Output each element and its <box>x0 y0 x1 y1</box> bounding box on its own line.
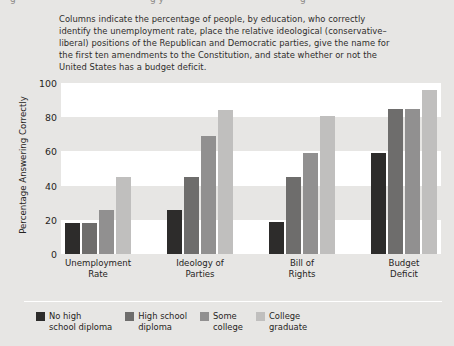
bar <box>116 177 131 254</box>
bar-group <box>65 83 131 254</box>
bar <box>303 153 318 254</box>
bar-groups <box>61 83 441 254</box>
bar <box>320 116 335 255</box>
y-axis-ticks: 020406080100 <box>24 83 57 254</box>
legend-divider <box>24 301 442 302</box>
x-axis-label: UnemploymentRate <box>65 258 131 281</box>
bar-group <box>371 83 437 254</box>
chart-legend: No highschool diplomaHigh schooldiplomaS… <box>36 311 320 333</box>
cropped-fragment-1: g <box>10 0 16 4</box>
bar <box>201 136 216 254</box>
legend-label: Collegegraduate <box>269 311 307 333</box>
legend-item[interactable]: Collegegraduate <box>256 311 307 333</box>
bar <box>388 109 403 254</box>
legend-swatch-icon <box>200 312 209 321</box>
legend-item[interactable]: No highschool diploma <box>36 311 112 333</box>
chart-caption: Columns indicate the percentage of peopl… <box>59 13 397 73</box>
plot-area <box>61 83 441 254</box>
legend-item[interactable]: Somecollege <box>200 311 243 333</box>
bar-group <box>167 83 233 254</box>
legend-swatch-icon <box>125 312 134 321</box>
legend-label: High schooldiploma <box>138 311 187 333</box>
bar <box>286 177 301 254</box>
x-axis-label: Ideology ofParties <box>167 258 233 281</box>
y-tick-label: 100 <box>39 78 57 89</box>
legend-label: Somecollege <box>213 311 243 333</box>
x-axis-label: Bill ofRights <box>269 258 335 281</box>
bar <box>269 222 284 254</box>
legend-item[interactable]: High schooldiploma <box>125 311 187 333</box>
x-axis-labels: UnemploymentRateIdeology ofPartiesBill o… <box>61 258 441 281</box>
y-tick-label: 80 <box>45 112 57 123</box>
y-tick-label: 40 <box>45 180 57 191</box>
y-tick-label: 60 <box>45 146 57 157</box>
x-axis-label: BudgetDeficit <box>371 258 437 281</box>
y-tick-label: 20 <box>45 214 57 225</box>
y-axis-title: Percentage Answering Correctly <box>18 80 28 250</box>
bar <box>218 110 233 254</box>
legend-swatch-icon <box>36 312 45 321</box>
cropped-fragment-3: g <box>300 0 306 4</box>
bar <box>82 223 97 254</box>
legend-label: No highschool diploma <box>49 311 112 333</box>
cropped-text-above: g g y g <box>0 0 454 8</box>
bar <box>422 90 437 254</box>
bar <box>65 223 80 254</box>
y-tick-label: 0 <box>51 249 57 260</box>
cropped-fragment-2: g y <box>150 0 164 4</box>
bar <box>167 210 182 254</box>
bar <box>405 109 420 254</box>
bar <box>184 177 199 254</box>
legend-swatch-icon <box>256 312 265 321</box>
bar-group <box>269 83 335 254</box>
bar <box>99 210 114 254</box>
bar <box>371 153 386 254</box>
figure-container: g g y g Columns indicate the percentage … <box>0 0 454 346</box>
